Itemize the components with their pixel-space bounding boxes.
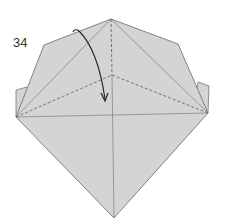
origami-diagram xyxy=(0,0,227,224)
paper-body xyxy=(16,19,208,218)
